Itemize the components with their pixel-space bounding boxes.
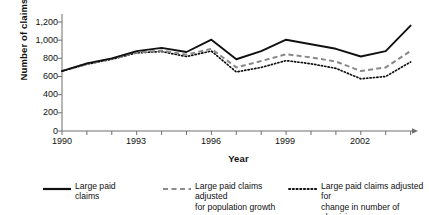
legend-label-line1: Large paid claims adjusted — [195, 181, 262, 201]
legend-item-large-paid-claims: Large paid claims — [42, 181, 157, 202]
dashed-line-swatch-icon — [162, 183, 192, 195]
legend-label-line2: claims — [75, 191, 99, 201]
series-lines — [62, 26, 411, 79]
legend-label-line2: for population growth — [195, 202, 275, 212]
y-axis-ticks — [58, 22, 62, 131]
chart-legend: Large paid claims Large paid claims adju… — [0, 181, 429, 215]
axes — [62, 14, 418, 134]
legend-label-line2: change in number of physicians — [321, 202, 399, 215]
dotted-line-swatch-icon — [288, 183, 318, 195]
series-line-large-paid-claims — [62, 26, 411, 71]
x-axis-arrow-icon — [412, 128, 418, 134]
legend-label-line1: Large paid — [75, 181, 116, 191]
legend-item-physician-adjusted: Large paid claims adjusted for change in… — [288, 181, 429, 215]
legend-item-population-adjusted: Large paid claims adjusted for populatio… — [162, 181, 287, 212]
solid-line-swatch-icon — [42, 183, 72, 195]
x-axis-ticks — [62, 131, 411, 135]
claims-line-chart: Number of claims 1,200 1,000 800 600 400… — [0, 0, 429, 215]
legend-label-line1: Large paid claims adjusted for — [321, 181, 423, 201]
